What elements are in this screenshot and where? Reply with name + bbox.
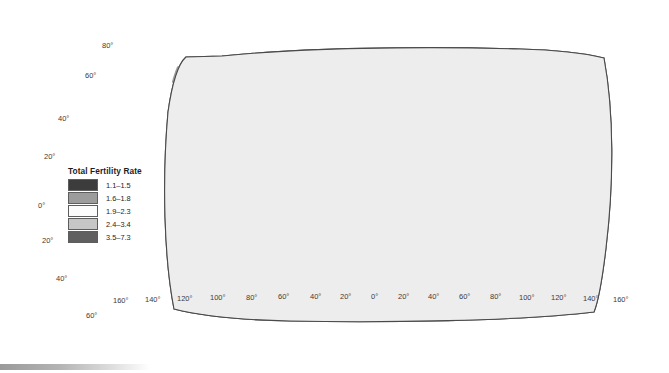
legend-range-4: 2.4–3.4 bbox=[106, 220, 131, 229]
lon-label-80e: 80° bbox=[490, 292, 501, 301]
lon-label-100e: 100° bbox=[519, 293, 535, 302]
legend-item: 1.9–2.3 bbox=[55, 205, 177, 217]
legend-range-1: 1.1–1.5 bbox=[106, 181, 131, 190]
lon-label-20w: 20° bbox=[340, 292, 351, 301]
lon-label-40w: 40° bbox=[310, 292, 321, 301]
legend-swatch-4 bbox=[68, 218, 98, 230]
lon-label-60w: 60° bbox=[278, 292, 289, 301]
lon-label-80w: 80° bbox=[246, 293, 257, 302]
lon-label-120e: 120° bbox=[551, 293, 567, 302]
lat-label-80n: 80° bbox=[102, 41, 113, 50]
legend-range-3: 1.9–2.3 bbox=[106, 207, 131, 216]
lon-label-120w: 120° bbox=[177, 294, 193, 303]
legend-item: 3.5–7.3 bbox=[55, 231, 177, 243]
lon-label-140e: 140° bbox=[583, 294, 599, 303]
map-frame-outline bbox=[165, 48, 612, 322]
lat-label-40n: 40° bbox=[58, 114, 69, 123]
lat-label-60n: 60° bbox=[85, 71, 96, 80]
lon-label-20e: 20° bbox=[398, 292, 409, 301]
legend-swatch-3 bbox=[68, 205, 98, 217]
lat-label-20n: 20° bbox=[44, 152, 55, 161]
lat-label-60s: 60° bbox=[86, 311, 97, 320]
legend-swatch-5 bbox=[68, 231, 98, 243]
lat-label-20s: 20° bbox=[42, 236, 53, 245]
legend-item: 1.1–1.5 bbox=[55, 179, 177, 191]
lon-label-160w: 160° bbox=[113, 296, 129, 305]
lon-label-140w: 140° bbox=[145, 295, 161, 304]
lon-label-40e: 40° bbox=[428, 292, 439, 301]
legend-swatch-1 bbox=[68, 179, 98, 191]
bottom-accent-bar bbox=[0, 364, 150, 370]
lon-label-160e: 160° bbox=[613, 295, 629, 304]
legend-range-2: 1.6–1.8 bbox=[106, 194, 131, 203]
lon-label-100w: 100° bbox=[210, 293, 226, 302]
lat-label-0: 0° bbox=[38, 201, 45, 210]
lon-label-0: 0° bbox=[371, 292, 378, 301]
region-new-zealand bbox=[604, 250, 618, 266]
legend-item: 2.4–3.4 bbox=[55, 218, 177, 230]
legend-item: 1.6–1.8 bbox=[55, 192, 177, 204]
legend-range-5: 3.5–7.3 bbox=[106, 233, 131, 242]
lat-label-40s: 40° bbox=[56, 274, 67, 283]
map-figure: 80° 60° 40° 20° 0° 20° 40° 60° 160° 140°… bbox=[0, 0, 669, 373]
legend-swatch-2 bbox=[68, 192, 98, 204]
lon-label-60e: 60° bbox=[459, 292, 470, 301]
legend: Total Fertility Rate 1.1–1.5 1.6–1.8 1.9… bbox=[55, 166, 177, 244]
legend-title: Total Fertility Rate bbox=[68, 166, 177, 176]
